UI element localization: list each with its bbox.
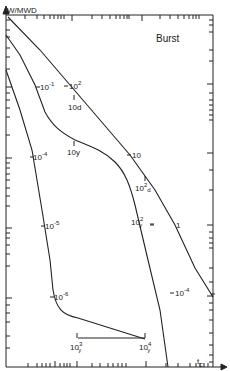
chart-title: Burst <box>156 33 180 44</box>
label-bot-4: 103y <box>70 341 83 353</box>
chart: W/MWD Burst 102 10d 10 102d 1 10-4 10-1 … <box>0 0 230 371</box>
label-top-3: 10 <box>132 151 141 160</box>
x-axis-label: tc <box>197 357 203 368</box>
y-ticks-left <box>6 20 12 348</box>
y-axis-label: W/MWD <box>7 6 37 15</box>
label-bot-3: 10-6 <box>54 291 69 302</box>
x-ticks-top <box>25 15 199 21</box>
axes <box>3 6 227 370</box>
label-bot-5: 104y <box>139 341 152 353</box>
curve-middle <box>6 35 168 367</box>
label-top-2: 10d <box>68 103 81 112</box>
label-bot-1: 10-4 <box>33 151 48 162</box>
label-top-5: 1 <box>176 221 181 230</box>
label-top-6: 10-4 <box>175 287 190 298</box>
label-bot-2: 10-5 <box>45 220 60 231</box>
label-mid-3: 102y <box>131 216 144 228</box>
label-mid-1: 10-1 <box>40 81 55 92</box>
label-mid-2: 10y <box>67 148 80 157</box>
label-top-4: 102d <box>135 182 151 193</box>
y-ticks-right <box>207 20 213 362</box>
label-top-1: 102 <box>69 80 82 91</box>
x-ticks-bottom <box>28 361 208 367</box>
